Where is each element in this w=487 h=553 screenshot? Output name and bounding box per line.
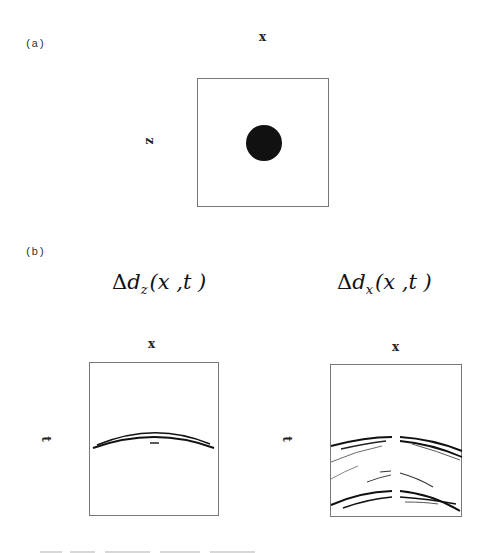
left-plot: [90, 363, 219, 516]
right-plot: [331, 365, 463, 517]
panel-a-model: [198, 79, 329, 207]
anomaly-circle: [246, 125, 282, 161]
right-plot-frame: [331, 365, 462, 517]
left-plot-frame: [90, 363, 219, 516]
figure-graphics: [0, 0, 487, 553]
